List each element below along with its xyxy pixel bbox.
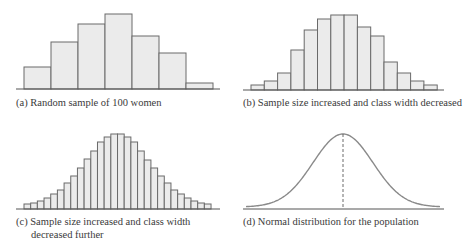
caption-d: (d) Normal distribution for the populati… — [243, 215, 419, 228]
normal-curve-d — [0, 0, 465, 248]
panel-d: (d) Normal distribution for the populati… — [0, 0, 465, 248]
